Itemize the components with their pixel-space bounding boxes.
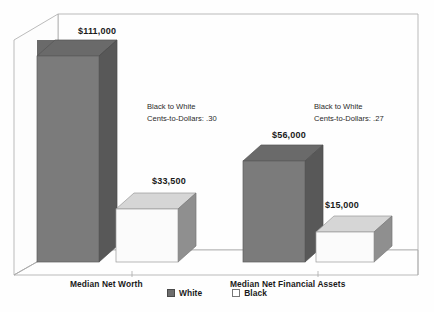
bar-3d-faces [116,193,196,273]
value-label-white-median-net-worth: $111,000 [78,26,116,36]
legend-swatch-hollow-square-icon [232,289,240,297]
bar-white-median-net-worth [37,40,99,262]
value-label-white-median-net-financial-assets: $56,000 [272,130,306,140]
value-label-black-median-net-worth: $33,500 [152,176,186,186]
bar-3d-faces [37,40,117,280]
annotation-line-2: Cents-to-Dollars: .30 [147,113,217,125]
annotation-line-2: Cents-to-Dollars: .27 [314,113,384,125]
legend-label-white: White [179,288,202,298]
value-label-black-median-net-financial-assets: $15,000 [325,200,359,210]
annotation-median-net-financial-assets: Black to White Cents-to-Dollars: .27 [314,101,384,125]
legend-swatch-filled-square-icon [167,289,175,297]
chart-container: $111,000 $33,500 Black to White Cents-to… [0,0,434,312]
bar-white-median-net-financial-assets [243,145,305,262]
bar-black-median-net-financial-assets [316,216,374,262]
legend-item-black[interactable]: Black [232,288,267,298]
legend-label-black: Black [244,288,267,298]
annotation-median-net-worth: Black to White Cents-to-Dollars: .30 [147,101,217,125]
annotation-line-1: Black to White [314,101,384,113]
bar-black-median-net-worth [116,193,178,262]
chart-legend: White Black [0,288,434,298]
legend-item-white[interactable]: White [167,288,202,298]
bar-3d-faces [316,216,392,272]
annotation-line-1: Black to White [147,101,217,113]
bar-3d-faces [243,145,323,275]
